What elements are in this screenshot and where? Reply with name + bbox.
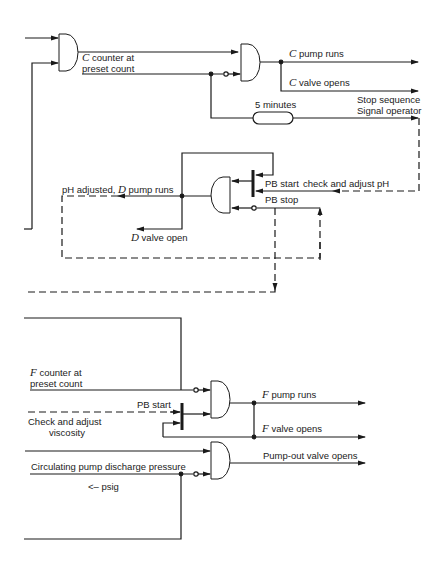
check-adjust-ph-label: check and adjust pH (303, 178, 389, 189)
c-valve-opens-label: C valve opens (289, 77, 350, 88)
c-counter-label: C counter at (82, 52, 134, 63)
pumpout-valve-label: Pump-out valve opens (263, 450, 358, 461)
f-valve-opens-label: F valve opens (262, 423, 322, 434)
ph-adjusted-label: pH adjusted, D pump runs (62, 184, 173, 195)
and-gate-pumpout (211, 442, 230, 479)
input-line-left-vertical (32, 63, 58, 229)
f-pump-runs-label: F pump runs (262, 389, 316, 400)
negation-circle (224, 72, 228, 76)
psig-label: <– psig (88, 481, 119, 492)
logic-diagram-canvas (0, 0, 445, 563)
circulating-pressure-label: Circulating pump discharge pressure (31, 461, 186, 472)
and-gate-c-pump (241, 44, 260, 81)
and-gate-c-counter (59, 34, 78, 71)
c-pump-runs-label: C pump runs (289, 48, 344, 59)
viscosity-label: viscosity (49, 427, 85, 438)
and-gate-ph (211, 177, 230, 213)
pb-start-label: PB start (265, 178, 299, 189)
dashed-left-line (24, 290, 275, 292)
timer-label: 5 minutes (255, 99, 296, 110)
check-viscosity-label: Check and adjust (28, 416, 101, 427)
pb-stop-negation (252, 206, 256, 210)
f-preset-count-label: preset count (30, 378, 82, 389)
d-valve-output (137, 196, 182, 229)
c-preset-count-label: preset count (82, 63, 134, 74)
and-gate-f-pump (211, 381, 230, 418)
pb-stop-label: PB stop (265, 194, 298, 205)
timer-5-minutes (253, 112, 293, 124)
ph-loop-dashed-line (62, 196, 320, 258)
d-valve-open-label: D valve open (131, 232, 188, 243)
f-latch-feedback (163, 423, 180, 437)
f-counter-label: F counter at (30, 367, 82, 378)
signal-operator-label: Signal operator (357, 105, 421, 116)
pb-start-f-label: PB start (137, 399, 171, 410)
stop-sequence-label: Stop sequence (357, 94, 420, 105)
